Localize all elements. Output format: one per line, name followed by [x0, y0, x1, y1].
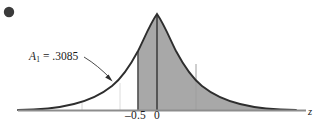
bullet-dot-icon: [4, 7, 14, 17]
area-value: .3085: [52, 50, 78, 62]
shaded-region-right-of-neg-half: [138, 0, 296, 110]
x-tick-label-neg-half: –0.5: [125, 110, 146, 122]
x-tick-label-zero: 0: [154, 110, 160, 122]
area-annotation-label: A1 = .3085: [29, 51, 78, 64]
area-symbol: A: [29, 50, 36, 62]
shaded-area-group: [138, 0, 296, 110]
area-equals-sign: =: [40, 50, 52, 62]
distribution-chart-canvas: [0, 0, 324, 132]
normal-distribution-figure: A1 = .3085 –0.5 0 z: [0, 0, 324, 132]
annotation-arrowhead-icon: [105, 75, 112, 82]
x-axis-label: z: [308, 107, 312, 118]
annotation-leader-line: [84, 57, 110, 78]
